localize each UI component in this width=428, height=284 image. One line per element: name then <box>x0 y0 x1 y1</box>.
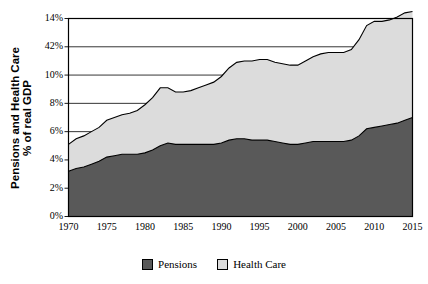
x-tick-label: 1980 <box>128 221 162 232</box>
y-tick-label: 42% <box>30 40 63 51</box>
x-tick-label: 1970 <box>52 221 86 232</box>
plot-area <box>0 0 428 284</box>
legend-item: Health Care <box>217 258 286 270</box>
x-tick-label: 1990 <box>204 221 238 232</box>
legend-swatch <box>142 259 153 270</box>
y-tick-label: 10% <box>30 69 63 80</box>
chart-legend: PensionsHealth Care <box>0 258 428 270</box>
x-tick-label: 2005 <box>319 221 353 232</box>
stacked-area-chart: Pensions and Health Care % of real GDP 0… <box>0 0 428 284</box>
x-tick-label: 1985 <box>166 221 200 232</box>
x-tick-label: 2010 <box>357 221 391 232</box>
legend-label: Health Care <box>233 258 286 270</box>
legend-item: Pensions <box>142 258 197 270</box>
y-tick-label: 8% <box>30 97 63 108</box>
y-tick-label: 0% <box>30 210 63 221</box>
x-tick-label: 2015 <box>396 221 428 232</box>
legend-label: Pensions <box>158 258 197 270</box>
y-tick-label: 4% <box>30 153 63 164</box>
x-tick-label: 1995 <box>243 221 277 232</box>
y-tick-label: 14% <box>30 12 63 23</box>
x-tick-label: 2000 <box>281 221 315 232</box>
y-tick-label: 6% <box>30 125 63 136</box>
y-tick-label: 2% <box>30 182 63 193</box>
legend-swatch <box>217 259 228 270</box>
x-tick-label: 1975 <box>90 221 124 232</box>
